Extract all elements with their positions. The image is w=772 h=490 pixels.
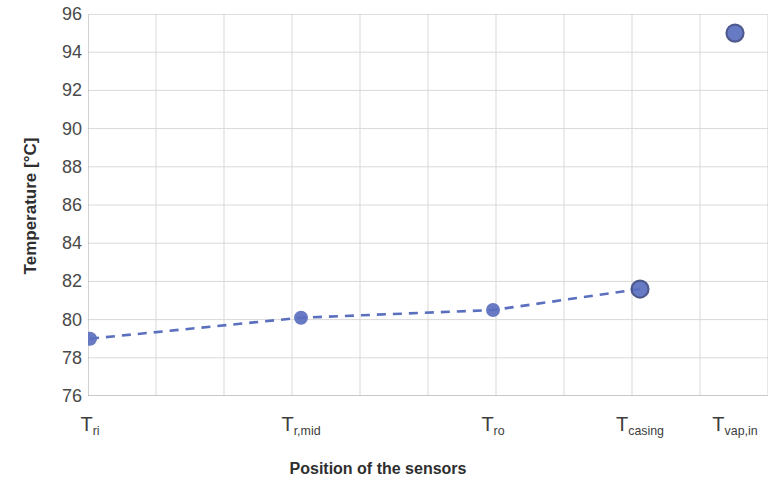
data-point bbox=[486, 303, 500, 317]
y-tick-label: 86 bbox=[36, 196, 82, 214]
y-axis-tick-labels: 9694929088868482807876 bbox=[30, 0, 82, 490]
plot-svg bbox=[88, 14, 768, 396]
y-tick-label: 96 bbox=[36, 5, 82, 23]
x-tick-label: Tvap,in bbox=[712, 414, 757, 434]
y-tick-label: 80 bbox=[36, 311, 82, 329]
series-dashed-line bbox=[90, 289, 640, 339]
x-tick-label: Tri bbox=[80, 414, 99, 434]
y-tick-label: 82 bbox=[36, 272, 82, 290]
x-tick-label: Tcasing bbox=[616, 414, 664, 434]
data-point bbox=[727, 25, 744, 42]
y-tick-label: 88 bbox=[36, 158, 82, 176]
series-path bbox=[90, 289, 640, 339]
data-point bbox=[632, 281, 649, 298]
y-tick-label: 78 bbox=[36, 349, 82, 367]
temperature-position-chart: Temperature [°C] 9694929088868482807876 … bbox=[0, 0, 772, 490]
y-tick-label: 84 bbox=[36, 234, 82, 252]
y-tick-label: 94 bbox=[36, 43, 82, 61]
data-point bbox=[88, 332, 97, 346]
data-point bbox=[294, 311, 308, 325]
x-tick-label: Tr,mid bbox=[281, 414, 320, 434]
y-tick-label: 92 bbox=[36, 81, 82, 99]
plot-area bbox=[88, 14, 768, 396]
series-data-points bbox=[88, 25, 744, 346]
x-axis-title: Position of the sensors bbox=[88, 460, 668, 478]
x-tick-label: Tro bbox=[481, 414, 504, 434]
y-tick-label: 90 bbox=[36, 120, 82, 138]
y-tick-label: 76 bbox=[36, 387, 82, 405]
